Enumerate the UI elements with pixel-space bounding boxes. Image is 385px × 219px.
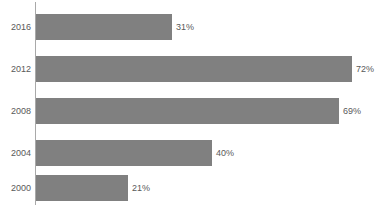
value-label-2012: 72% bbox=[352, 56, 374, 82]
bar-2004[interactable] bbox=[36, 140, 212, 166]
bar-2008[interactable] bbox=[36, 98, 339, 124]
bar-row: 2008 69% bbox=[0, 98, 385, 124]
bar-2000[interactable] bbox=[36, 175, 128, 201]
bar-chart: 2016 31% 2012 72% 2008 69% 2004 40% 2000… bbox=[0, 0, 385, 219]
value-label-2016: 31% bbox=[172, 14, 194, 40]
bar-row: 2016 31% bbox=[0, 14, 385, 40]
category-label-2012: 2012 bbox=[0, 56, 31, 82]
category-label-2000: 2000 bbox=[0, 175, 31, 201]
bar-row: 2004 40% bbox=[0, 140, 385, 166]
value-label-2000: 21% bbox=[128, 175, 150, 201]
bar-row: 2000 21% bbox=[0, 175, 385, 201]
category-label-2004: 2004 bbox=[0, 140, 31, 166]
bar-2012[interactable] bbox=[36, 56, 352, 82]
category-label-2016: 2016 bbox=[0, 14, 31, 40]
bar-row: 2012 72% bbox=[0, 56, 385, 82]
bar-2016[interactable] bbox=[36, 14, 172, 40]
category-label-2008: 2008 bbox=[0, 98, 31, 124]
value-label-2008: 69% bbox=[339, 98, 361, 124]
value-label-2004: 40% bbox=[212, 140, 234, 166]
